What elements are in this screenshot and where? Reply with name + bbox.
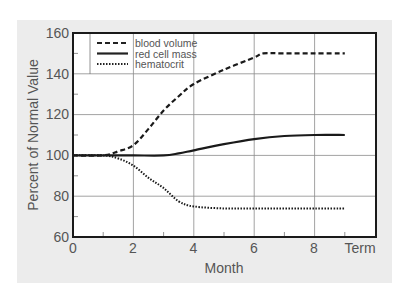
y-axis-label: Percent of Normal Value xyxy=(25,59,41,211)
y-tick-label: 140 xyxy=(46,66,70,82)
legend-label: hematocrit xyxy=(135,58,184,70)
x-axis-label: Month xyxy=(205,260,244,276)
y-tick-label: 80 xyxy=(53,188,69,204)
y-tick-label: 120 xyxy=(46,106,70,122)
x-tick-label: Term xyxy=(344,240,375,256)
y-tick-label: 100 xyxy=(46,147,70,163)
x-axis-ticks: 0 2 4 6 8 Term xyxy=(69,240,375,256)
y-tick-label: 160 xyxy=(46,25,70,41)
x-tick-label: 2 xyxy=(129,240,137,256)
x-tick-label: 0 xyxy=(69,240,77,256)
line-chart: blood volume red cell mass hematocrit 16… xyxy=(0,0,404,294)
x-tick-label: 4 xyxy=(190,240,198,256)
y-tick-label: 60 xyxy=(53,229,69,245)
x-tick-label: 6 xyxy=(250,240,258,256)
x-tick-label: 8 xyxy=(310,240,318,256)
y-axis-ticks: 160 140 120 100 80 60 xyxy=(46,25,70,245)
